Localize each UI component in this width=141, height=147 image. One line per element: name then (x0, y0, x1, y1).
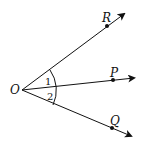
label-P: P (110, 67, 118, 79)
angle-diagram: O R P Q 1 2 (0, 0, 141, 147)
label-Q: Q (110, 115, 120, 127)
angle-1-label: 1 (45, 77, 51, 87)
angle-2-label: 2 (47, 92, 53, 102)
label-O: O (10, 84, 20, 96)
label-R: R (102, 12, 111, 24)
ray-OQ (22, 90, 131, 136)
